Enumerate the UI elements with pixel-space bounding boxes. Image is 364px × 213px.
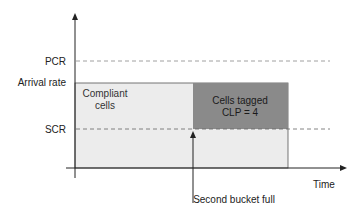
compliant-label-2: cells bbox=[95, 100, 115, 111]
arrival-rate-label: Arrival rate bbox=[18, 77, 67, 88]
pcr-label: PCR bbox=[45, 56, 66, 67]
tagged-region bbox=[193, 83, 288, 129]
time-label: Time bbox=[313, 179, 335, 190]
tagged-label-1: Cells tagged bbox=[212, 95, 268, 106]
tagged-label-2: CLP = 4 bbox=[222, 107, 259, 118]
second-bucket-label: Second bucket full bbox=[193, 194, 275, 205]
compliant-label-1: Compliant bbox=[82, 88, 127, 99]
traffic-policing-diagram: PCR Arrival rate SCR Compliant cells Cel… bbox=[0, 0, 364, 213]
scr-label: SCR bbox=[45, 124, 66, 135]
